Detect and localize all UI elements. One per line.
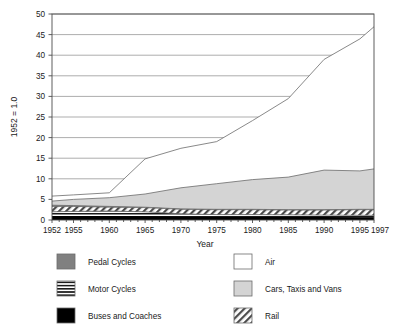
x-tick-label: 1990 <box>315 226 334 235</box>
y-tick-label: 20 <box>36 134 46 143</box>
legend-label-motor-cycles: Motor Cycles <box>88 285 136 294</box>
y-tick-label: 45 <box>36 31 46 40</box>
y-tick-label: 15 <box>36 154 46 163</box>
y-tick-label: 30 <box>36 92 46 101</box>
y-axis-ticks <box>49 14 53 220</box>
legend-label-rail: Rail <box>265 312 279 321</box>
x-tick-label: 1985 <box>279 226 298 235</box>
legend-swatch-rail <box>234 308 252 323</box>
y-tick-label: 0 <box>40 216 45 225</box>
y-tick-label: 50 <box>36 10 46 19</box>
legend-label-buses-and-coaches: Buses and Coaches <box>88 312 161 321</box>
legend-item-cars-taxis-vans: Cars, Taxis and Vans <box>234 281 342 296</box>
x-tick-label: 1965 <box>136 226 155 235</box>
y-axis-title: 1952 = 1.0 <box>9 97 19 138</box>
y-axis-tick-labels: 50 45 40 35 30 25 20 15 10 5 0 <box>36 10 46 225</box>
transport-growth-area-chart: 50 45 40 35 30 25 20 15 10 5 0 1952 = 1.… <box>0 0 400 335</box>
x-tick-label: 1995 <box>351 226 370 235</box>
legend-item-pedal-cycles: Pedal Cycles <box>57 254 136 269</box>
y-tick-label: 10 <box>36 175 46 184</box>
legend-item-rail: Rail <box>234 308 279 323</box>
legend-swatch-motor-cycles <box>57 281 75 296</box>
legend-swatch-cars-taxis-vans <box>234 281 252 296</box>
y-tick-label: 35 <box>36 72 46 81</box>
legend-item-motor-cycles: Motor Cycles <box>57 281 136 296</box>
chart-legend: Pedal Cycles Motor Cycles Buses and Coac… <box>57 254 342 323</box>
legend-item-buses-and-coaches: Buses and Coaches <box>57 308 161 323</box>
x-tick-label: 1952 <box>43 226 62 235</box>
legend-label-cars-taxis-vans: Cars, Taxis and Vans <box>265 285 342 294</box>
chart-figure: 50 45 40 35 30 25 20 15 10 5 0 1952 = 1.… <box>0 0 400 335</box>
y-tick-label: 25 <box>36 113 46 122</box>
x-tick-label: 1997 <box>371 226 390 235</box>
x-tick-label: 1960 <box>100 226 119 235</box>
x-tick-label: 1970 <box>172 226 191 235</box>
legend-swatch-pedal-cycles <box>57 254 75 269</box>
legend-label-air: Air <box>265 258 275 267</box>
x-axis-tick-labels: 1952 1955 1960 1965 1970 1975 1980 1985 … <box>43 226 390 235</box>
x-tick-label: 1980 <box>243 226 262 235</box>
x-tick-label: 1955 <box>64 226 83 235</box>
x-axis-title: Year <box>196 239 213 249</box>
legend-swatch-air <box>234 254 252 269</box>
legend-swatch-buses-and-coaches <box>57 308 75 323</box>
x-tick-label: 1975 <box>208 226 227 235</box>
legend-item-air: Air <box>234 254 275 269</box>
y-tick-label: 40 <box>36 51 46 60</box>
legend-label-pedal-cycles: Pedal Cycles <box>88 258 136 267</box>
y-tick-label: 5 <box>40 195 45 204</box>
